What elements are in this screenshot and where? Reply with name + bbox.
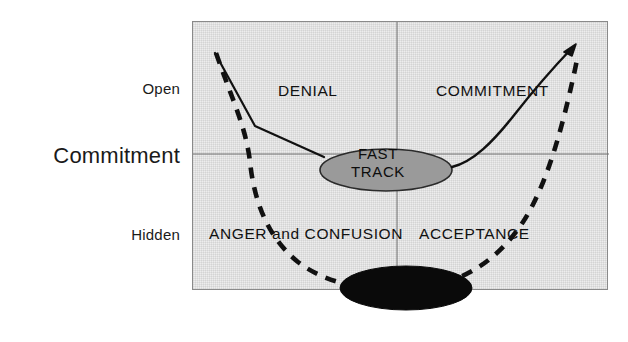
axis-label-hidden: Hidden (40, 226, 180, 243)
plot-label-anger-and-confusion: ANGER and CONFUSION (209, 225, 403, 243)
axis-label-open: Open (40, 80, 180, 97)
ellipse-label-fast: FAST (308, 145, 448, 162)
plot-label-commitment: COMMITMENT (436, 82, 549, 100)
plot-label-acceptance: ACCEPTANCE (419, 225, 530, 243)
axis-label-commitment: Commitment (10, 143, 180, 169)
ellipse-unlabeled-dark (340, 266, 472, 310)
ellipse-label-track: TRACK (308, 163, 448, 180)
diagram-canvas: Open Commitment Hidden DENIAL COMMITMENT… (0, 0, 628, 342)
solid-curve-left (215, 53, 324, 157)
plot-label-denial: DENIAL (278, 82, 338, 100)
plot-area: DENIAL COMMITMENT ANGER and CONFUSION AC… (192, 21, 608, 290)
